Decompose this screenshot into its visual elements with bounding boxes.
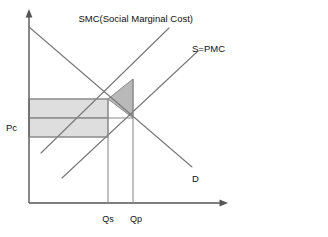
supply-demand-chart: SMC(Social Marginal Cost) S=PMC D Pc Qs … <box>0 0 328 237</box>
smc-curve-label: SMC(Social Marginal Cost) <box>78 13 193 24</box>
lower-shaded-band <box>29 118 108 137</box>
price-axis-label: Pc <box>6 122 17 133</box>
quantity-axis-arrow-icon <box>220 200 229 207</box>
qs-tick-label: Qs <box>102 214 114 224</box>
upper-shaded-band <box>29 99 108 118</box>
price-axis-arrow-icon <box>26 9 33 18</box>
externality-diagram: SMC(Social Marginal Cost) S=PMC D Pc Qs … <box>0 0 328 237</box>
demand-curve <box>29 27 192 167</box>
shaded-regions-group <box>29 79 133 137</box>
pmc-curve-label: S=PMC <box>192 43 225 54</box>
demand-curve-label: D <box>192 173 199 184</box>
qp-tick-label: Qp <box>130 214 142 224</box>
